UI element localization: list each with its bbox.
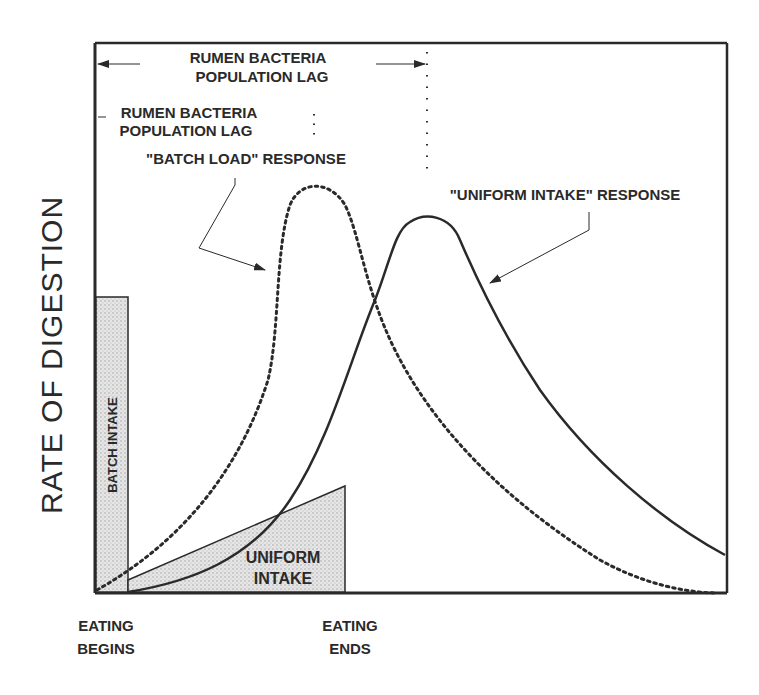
inner-lag-label-line2: POPULATION LAG [119,122,252,139]
eating-begins-line2: BEGINS [77,640,135,657]
batch-load-response-curve [97,186,715,593]
uniform-intake-area: UNIFORM INTAKE [128,486,345,592]
inner-lag-label-line1: RUMEN BACTERIA [121,104,258,121]
digestion-diagram: BATCH INTAKE UNIFORM INTAKE RUMEN BACTER… [0,0,759,695]
inner-lag-annotation: RUMEN BACTERIA POPULATION LAG [98,104,314,140]
eating-ends-line2: ENDS [329,640,371,657]
uniform-response-label: "UNIFORM INTAKE" RESPONSE [450,186,681,203]
uniform-response-annotation: "UNIFORM INTAKE" RESPONSE [450,186,681,283]
batch-intake-bar: BATCH INTAKE [96,297,128,592]
batch-response-annotation: "BATCH LOAD" RESPONSE [146,150,346,270]
batch-intake-label: BATCH INTAKE [105,397,120,493]
batch-response-label: "BATCH LOAD" RESPONSE [146,150,346,167]
eating-ends-line1: EATING [322,617,378,634]
x-axis-labels: EATING BEGINS EATING ENDS [77,617,378,657]
uniform-intake-label-line1: UNIFORM [246,549,321,566]
uniform-intake-label-line2: INTAKE [254,570,313,587]
eating-begins-line1: EATING [78,617,134,634]
outer-lag-label-line1: RUMEN BACTERIA [190,49,327,66]
outer-lag-label-line2: POPULATION LAG [195,68,328,85]
y-axis-label: RATE OF DIGESTION [35,196,68,514]
